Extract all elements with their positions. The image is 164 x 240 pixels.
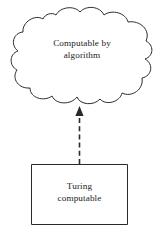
- cloud-label: Computable by algorithm: [0, 38, 164, 62]
- cloud-label-line-1: Computable by: [0, 38, 164, 50]
- arrowhead-up-icon: [75, 106, 83, 116]
- box-label-line-2: computable: [31, 193, 128, 205]
- box-label-line-1: Turing: [31, 181, 128, 193]
- diagram-canvas: Computable by algorithm Turing computabl…: [0, 0, 164, 240]
- cloud-label-line-2: algorithm: [0, 50, 164, 62]
- box-label: Turing computable: [31, 181, 128, 205]
